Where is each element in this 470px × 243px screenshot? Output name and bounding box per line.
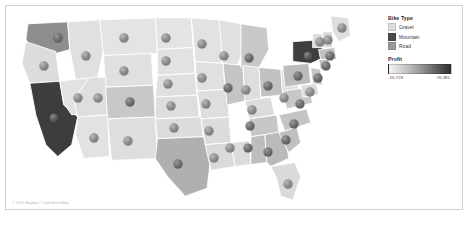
map-marker[interactable] [326, 52, 335, 61]
map-marker[interactable] [224, 84, 233, 93]
map-marker[interactable] [120, 67, 129, 76]
map-marker[interactable] [50, 114, 59, 123]
profit-gradient-bar [388, 64, 452, 74]
map-marker[interactable] [306, 88, 315, 97]
map-marker[interactable] [304, 52, 313, 61]
map-marker[interactable] [220, 52, 229, 61]
state-idaho[interactable] [68, 20, 104, 79]
state-minnesota[interactable] [191, 18, 223, 64]
profit-max-label: 76,381 [437, 75, 450, 80]
map-marker[interactable] [90, 134, 99, 143]
map-marker[interactable] [226, 144, 235, 153]
map-marker[interactable] [294, 72, 303, 81]
map-marker[interactable] [54, 34, 63, 43]
state-new-mexico[interactable] [108, 117, 158, 161]
legend-item-label: Mountain [399, 34, 420, 40]
map-marker[interactable] [198, 40, 207, 49]
map-marker[interactable] [242, 86, 251, 95]
map-marker[interactable] [264, 82, 273, 91]
map-marker[interactable] [338, 24, 347, 33]
map-marker[interactable] [126, 98, 135, 107]
map-marker[interactable] [314, 74, 323, 83]
map-marker[interactable] [162, 57, 171, 66]
map-marker[interactable] [246, 122, 255, 131]
map-marker[interactable] [202, 100, 211, 109]
map-marker[interactable] [264, 148, 273, 157]
map-marker[interactable] [162, 34, 171, 43]
legend-swatch-icon [388, 23, 396, 31]
legend-item-label: Road [399, 43, 411, 49]
map-marker[interactable] [205, 127, 214, 136]
map-marker[interactable] [284, 180, 293, 189]
legend-swatch-icon [388, 33, 396, 41]
profit-min-label: -25,729 [388, 75, 403, 80]
map-marker[interactable] [94, 94, 103, 103]
state-oklahoma[interactable] [155, 117, 203, 139]
map-marker[interactable] [164, 80, 173, 89]
legend-title-bike-type: Bike Type [388, 15, 452, 21]
state-michigan[interactable] [241, 24, 269, 72]
legend-title-profit: Profit [388, 56, 452, 62]
map-marker[interactable] [170, 124, 179, 133]
map-legend: Bike Type GravelMountainRoad Profit -25,… [384, 12, 456, 83]
map-attribution: © 2021 Mapbox © OpenStreetMap [12, 201, 69, 205]
legend-item-label: Gravel [399, 24, 414, 30]
map-marker[interactable] [296, 100, 305, 109]
map-marker[interactable] [244, 144, 253, 153]
legend-items: GravelMountainRoad [388, 23, 452, 50]
state-north-dakota[interactable] [155, 18, 193, 50]
state-texas[interactable] [155, 137, 211, 196]
map-marker[interactable] [198, 74, 207, 83]
profit-legend: Profit -25,729 76,381 [388, 56, 452, 80]
legend-swatch-icon [388, 42, 396, 50]
map-marker[interactable] [174, 160, 183, 169]
map-marker[interactable] [82, 52, 91, 61]
profit-gradient-ticks: -25,729 76,381 [388, 75, 450, 80]
map-marker[interactable] [167, 102, 176, 111]
legend-item-road[interactable]: Road [388, 42, 452, 50]
map-marker[interactable] [322, 62, 331, 71]
state-indiana[interactable] [243, 65, 261, 101]
map-marker[interactable] [245, 54, 254, 63]
legend-item-mountain[interactable]: Mountain [388, 33, 452, 41]
map-marker[interactable] [324, 36, 333, 45]
map-marker[interactable] [210, 154, 219, 163]
map-marker[interactable] [120, 34, 129, 43]
state-nebraska[interactable] [155, 73, 197, 97]
map-visualization[interactable]: Bike Type GravelMountainRoad Profit -25,… [5, 5, 463, 210]
map-marker[interactable] [280, 94, 289, 103]
legend-item-gravel[interactable]: Gravel [388, 23, 452, 31]
map-marker[interactable] [248, 106, 257, 115]
map-marker[interactable] [282, 136, 291, 145]
map-marker[interactable] [40, 62, 49, 71]
map-marker[interactable] [290, 120, 299, 129]
map-marker[interactable] [124, 137, 133, 146]
map-marker[interactable] [74, 94, 83, 103]
state-kansas[interactable] [155, 95, 199, 119]
